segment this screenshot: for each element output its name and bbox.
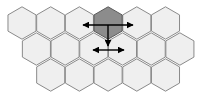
hex-cell — [137, 33, 165, 65]
hex-grid-diagram — [0, 0, 201, 98]
hex-cell — [37, 7, 65, 39]
hex-cells — [8, 7, 194, 91]
hex-cell — [123, 59, 151, 91]
hex-cell — [151, 59, 179, 91]
hex-cell — [65, 59, 93, 91]
hex-cell — [22, 33, 50, 65]
hex-cell — [8, 7, 36, 39]
hex-cell — [123, 7, 151, 39]
hex-cell — [151, 7, 179, 39]
hex-cell — [94, 59, 122, 91]
hex-cell — [108, 33, 136, 65]
hex-cell — [51, 33, 79, 65]
hex-cell — [65, 7, 93, 39]
hex-grid-canvas — [0, 0, 201, 98]
hex-cell — [166, 33, 194, 65]
hex-cell — [37, 59, 65, 91]
hex-cell — [80, 33, 108, 65]
